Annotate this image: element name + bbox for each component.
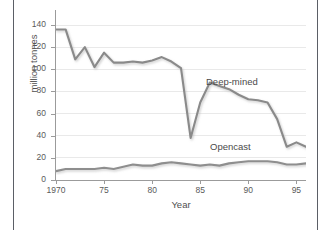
- plot-area: [56, 25, 306, 180]
- y-tick-mark: [51, 25, 55, 26]
- x-tick-label: 95: [276, 186, 316, 195]
- x-tick-label: 75: [84, 186, 124, 195]
- y-tick-label: 140: [0, 20, 46, 29]
- y-tick-mark: [51, 136, 55, 137]
- y-tick-mark: [51, 180, 55, 181]
- y-tick-label: 40: [0, 131, 46, 140]
- y-tick-mark: [51, 69, 55, 70]
- x-tick-mark: [104, 180, 105, 184]
- plot-svg: [56, 25, 306, 180]
- x-tick-label: 80: [132, 186, 172, 195]
- y-tick-label: 20: [0, 153, 46, 162]
- coal-production-figure: million tonnes Year 020406080100120140 1…: [0, 0, 331, 230]
- x-axis-label: Year: [56, 199, 306, 210]
- series-lines: [56, 29, 306, 171]
- x-tick-label: 85: [180, 186, 220, 195]
- y-tick-label: 60: [0, 109, 46, 118]
- y-tick-mark: [51, 114, 55, 115]
- series-annotation-opencast: Opencast: [210, 141, 251, 152]
- y-tick-label: 120: [0, 42, 46, 51]
- x-tick-mark: [56, 180, 57, 184]
- y-tick-mark: [51, 158, 55, 159]
- y-tick-mark: [51, 47, 55, 48]
- x-tick-mark: [200, 180, 201, 184]
- x-tick-mark: [152, 180, 153, 184]
- series-line-opencast: [56, 161, 306, 171]
- y-tick-mark: [51, 91, 55, 92]
- x-tick-mark: [248, 180, 249, 184]
- x-tick-label: 90: [228, 186, 268, 195]
- y-tick-label: 80: [0, 86, 46, 95]
- x-tick-label: 1970: [36, 186, 76, 195]
- series-annotation-deep-mined: Deep-mined: [206, 76, 258, 87]
- y-tick-label: 0: [0, 175, 46, 184]
- y-tick-label: 100: [0, 64, 46, 73]
- x-tick-mark: [296, 180, 297, 184]
- x-axis-spine: [55, 180, 306, 181]
- figure-right-rule: [317, 0, 318, 230]
